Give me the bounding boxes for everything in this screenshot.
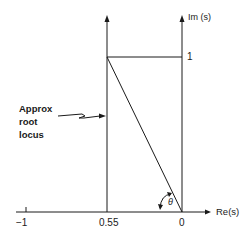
real-axis-label: Re(s) <box>216 207 239 217</box>
real-tick-055: 0.55 <box>99 218 118 228</box>
annotation-line3: locus <box>19 130 44 140</box>
root-locus-arrow-icon <box>105 15 110 22</box>
real-tick-zero: 0 <box>179 218 185 228</box>
imag-axis-arrow-icon <box>180 15 185 22</box>
theta-arc-arrow-down-icon <box>158 204 163 210</box>
annotation-line2: root <box>19 117 37 127</box>
imag-tick-one: 1 <box>187 52 193 62</box>
real-axis-arrow-icon <box>205 210 211 215</box>
theta-label: θ <box>168 198 173 207</box>
annotation-leader <box>58 114 100 118</box>
real-tick-minus-one: −1 <box>16 218 27 228</box>
annotation-arrow-icon <box>99 114 106 119</box>
damping-line <box>107 57 182 212</box>
imag-axis-label: Im (s) <box>188 13 211 22</box>
annotation-line1: Approx <box>19 104 52 114</box>
